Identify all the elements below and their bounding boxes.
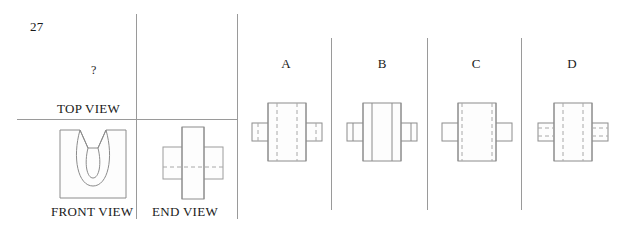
option-divider-a-b <box>331 38 332 210</box>
given-views-panel-divider <box>237 14 238 219</box>
question-sheet: 27 ? TOP VIEW FRONT VIEW <box>0 0 641 229</box>
given-views-vertical-rule <box>136 14 137 219</box>
given-views-horizontal-rule <box>17 119 237 120</box>
option-divider-b-c <box>427 38 428 210</box>
front-view-drawing <box>58 128 128 200</box>
question-number: 27 <box>30 20 43 33</box>
front-view-label: FRONT VIEW <box>51 205 133 218</box>
option-c-letter: C <box>456 57 496 70</box>
missing-view-question-mark: ? <box>91 64 96 76</box>
option-d-drawing[interactable] <box>536 101 610 163</box>
option-d-letter: D <box>552 57 592 70</box>
option-a-letter: A <box>266 57 306 70</box>
option-c-drawing[interactable] <box>440 101 514 163</box>
option-a-drawing[interactable] <box>250 101 324 163</box>
end-view-drawing <box>160 124 226 202</box>
option-divider-c-d <box>521 38 522 210</box>
end-view-label: END VIEW <box>152 205 218 218</box>
option-b-drawing[interactable] <box>345 101 419 163</box>
option-b-letter: B <box>362 57 402 70</box>
top-view-label: TOP VIEW <box>57 102 120 115</box>
